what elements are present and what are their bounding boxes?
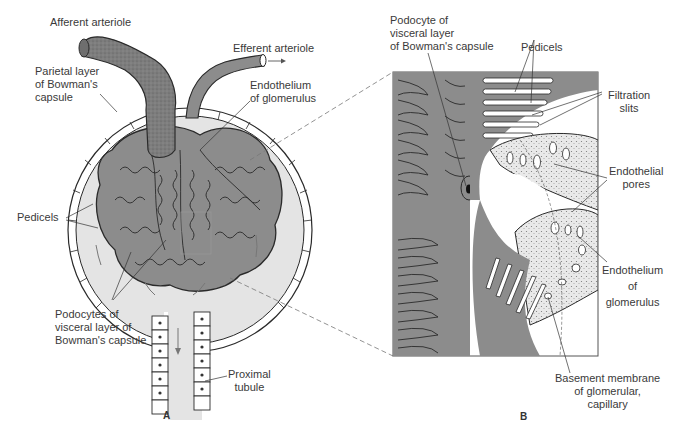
label-line: Endothelium xyxy=(250,79,316,92)
label-line: tubule xyxy=(228,381,271,394)
label-line: capsule xyxy=(35,91,99,104)
label-parietal-layer: Parietal layer of Bowman's capsule xyxy=(35,65,99,104)
label-endothelial-pores: Endothelial pores xyxy=(609,165,663,191)
panel-b-letter: B xyxy=(520,411,527,422)
label-basement-membrane: Basement membrane of glomerular, capilla… xyxy=(555,372,660,411)
label-podocytes-visceral: Podocytes of visceral layer of Bowman's … xyxy=(55,308,146,347)
label-pedicels-b: Pedicels xyxy=(521,41,563,54)
label-line: of glomerulus xyxy=(250,92,316,105)
label-endothelium-glomerulus-b: Endothelium of glomerulus xyxy=(602,262,663,310)
label-line: pores xyxy=(609,178,663,191)
label-line: glomerulus xyxy=(602,294,663,310)
label-line: Proximal xyxy=(228,368,271,381)
label-line: Podocytes of xyxy=(55,308,146,321)
label-efferent-arteriole: Efferent arteriole xyxy=(233,42,314,55)
label-line: Endothelial xyxy=(609,165,663,178)
label-line: Parietal layer xyxy=(35,65,99,78)
label-afferent-arteriole: Afferent arteriole xyxy=(50,16,131,29)
label-line: visceral layer xyxy=(390,27,494,40)
label-line: capillary xyxy=(555,398,660,411)
label-filtration-slits: Filtration slits xyxy=(608,89,650,115)
label-line: visceral layer of xyxy=(55,321,146,334)
label-podocyte-visceral-b: Podocyte of visceral layer of Bowman's c… xyxy=(390,14,494,53)
label-line: Endothelium xyxy=(602,262,663,278)
label-line: of glomerular, xyxy=(555,385,660,398)
label-line: slits xyxy=(608,102,650,115)
panel-a-letter: A xyxy=(163,410,170,421)
label-pedicels-a: Pedicels xyxy=(17,211,59,224)
label-line: Bowman's capsule xyxy=(55,334,146,347)
label-line: of Bowman's xyxy=(35,78,99,91)
glomerulus xyxy=(96,127,281,292)
label-line: Filtration xyxy=(608,89,650,102)
panel-b-illustration xyxy=(393,72,598,356)
label-line: of Bowman's capsule xyxy=(390,40,494,53)
label-line: Basement membrane xyxy=(555,372,660,385)
label-line: of xyxy=(602,278,663,294)
label-endothelium-glomerulus: Endothelium of glomerulus xyxy=(250,79,316,105)
label-proximal-tubule: Proximal tubule xyxy=(228,368,271,394)
label-line: Podocyte of xyxy=(390,14,494,27)
